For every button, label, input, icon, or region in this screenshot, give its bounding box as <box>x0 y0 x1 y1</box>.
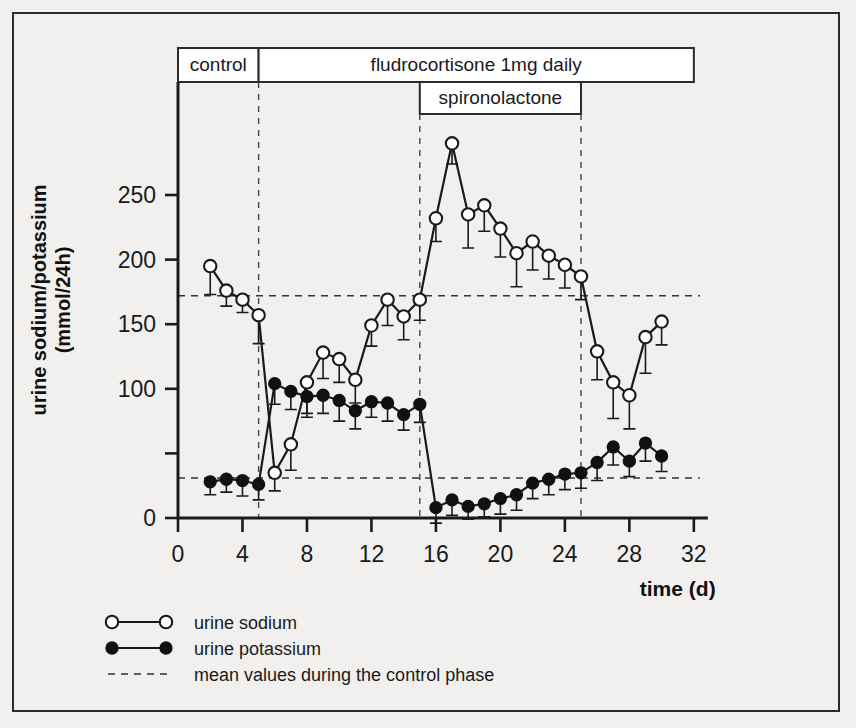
y-tick-label-150: 150 <box>118 311 156 337</box>
x-axis-title: time (d) <box>640 577 716 600</box>
x-tick-label-28: 28 <box>617 541 643 567</box>
data-point <box>656 450 667 461</box>
data-point <box>543 474 554 485</box>
data-point <box>333 353 345 365</box>
data-point <box>349 374 361 386</box>
y-tick-label-100: 100 <box>118 376 156 402</box>
legend-label-0: urine sodium <box>194 613 297 633</box>
data-point <box>655 315 667 327</box>
x-tick-label-32: 32 <box>681 541 707 567</box>
data-point <box>414 293 426 305</box>
data-point <box>237 475 248 486</box>
data-point <box>575 270 587 282</box>
data-point <box>301 391 312 402</box>
data-point <box>640 437 651 448</box>
phase-bar-fludrocortisone-label: fludrocortisone 1mg daily <box>371 54 583 75</box>
y-tick-label-250: 250 <box>118 182 156 208</box>
data-point <box>397 310 409 322</box>
data-point <box>430 502 441 513</box>
data-point <box>559 468 570 479</box>
data-point <box>446 137 458 149</box>
legend-marker-open-circle <box>160 616 172 628</box>
data-point <box>479 498 490 509</box>
data-point <box>478 199 490 211</box>
data-point <box>350 405 361 416</box>
data-point <box>398 409 409 420</box>
data-point <box>591 345 603 357</box>
phase-bar-control-label: control <box>190 54 247 75</box>
y-axis-title-line2: (mmol/24h) <box>52 247 74 354</box>
data-point <box>526 235 538 247</box>
data-point <box>543 250 555 262</box>
data-point <box>608 441 619 452</box>
y-axis-title-line1: urine sodium/potassium <box>28 184 50 415</box>
data-point <box>221 474 232 485</box>
data-point <box>317 346 329 358</box>
data-point <box>285 386 296 397</box>
y-tick-label-200: 200 <box>118 247 156 273</box>
data-point <box>382 397 393 408</box>
chart-figure: controlfludrocortisone 1mg dailyspironol… <box>0 0 856 728</box>
data-point <box>559 259 571 271</box>
x-tick-label-8: 8 <box>301 541 314 567</box>
x-tick-label-16: 16 <box>423 541 449 567</box>
data-point <box>463 501 474 512</box>
x-tick-label-0: 0 <box>172 541 185 567</box>
data-point <box>592 457 603 468</box>
data-point <box>252 309 264 321</box>
data-point <box>381 293 393 305</box>
legend-label-1: urine potassium <box>194 639 321 659</box>
series-urine-potassium <box>204 378 667 523</box>
data-point <box>446 494 457 505</box>
data-point <box>285 438 297 450</box>
series-line-urine-sodium <box>210 143 661 473</box>
data-point <box>334 395 345 406</box>
data-point <box>527 478 538 489</box>
data-point <box>236 293 248 305</box>
x-tick-label-4: 4 <box>236 541 249 567</box>
data-point <box>366 396 377 407</box>
x-tick-label-20: 20 <box>488 541 514 567</box>
data-point <box>269 467 281 479</box>
data-point <box>220 284 232 296</box>
legend-marker-open-circle <box>106 616 118 628</box>
data-point <box>365 319 377 331</box>
data-point <box>495 493 506 504</box>
legend-marker-filled-circle <box>106 642 117 653</box>
y-tick-label-0: 0 <box>143 505 156 531</box>
data-point <box>204 260 216 272</box>
series-line-urine-potassium <box>210 384 661 508</box>
series-urine-sodium <box>204 137 668 491</box>
legend-marker-filled-circle <box>160 642 171 653</box>
data-point <box>639 331 651 343</box>
x-tick-label-24: 24 <box>552 541 578 567</box>
data-point <box>623 389 635 401</box>
data-point <box>430 212 442 224</box>
phase-bar-spironolactone-label: spironolactone <box>439 87 563 108</box>
data-point <box>205 476 216 487</box>
data-point <box>510 247 522 259</box>
data-point <box>607 376 619 388</box>
chart-svg: controlfludrocortisone 1mg dailyspironol… <box>0 0 856 728</box>
data-point <box>317 390 328 401</box>
data-point <box>575 467 586 478</box>
data-point <box>301 376 313 388</box>
data-point <box>462 208 474 220</box>
data-point <box>414 399 425 410</box>
data-point <box>253 479 264 490</box>
data-point <box>494 222 506 234</box>
data-point <box>511 489 522 500</box>
legend-label-2: mean values during the control phase <box>194 665 494 685</box>
data-point <box>269 378 280 389</box>
data-point <box>624 456 635 467</box>
x-tick-label-12: 12 <box>359 541 385 567</box>
